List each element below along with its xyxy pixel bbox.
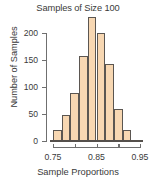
y-tick-100	[42, 87, 47, 88]
histogram-bar	[114, 109, 123, 141]
y-tick-0	[42, 141, 47, 142]
x-tick-0.80	[75, 144, 76, 148]
x-tick-label-0.75: 0.75	[38, 153, 68, 162]
x-tick-0.95	[140, 144, 141, 148]
baseline-rule	[50, 140, 143, 143]
y-tick-50	[42, 114, 47, 115]
y-tick-200	[42, 33, 47, 34]
histogram-bar	[88, 17, 97, 141]
x-axis-label: Sample Proportions	[0, 167, 156, 177]
histogram-bar	[62, 115, 71, 141]
x-tick-0.85	[97, 144, 98, 148]
plot-area: 200 150 100 50 0 Number of Samples 0.75 …	[0, 0, 156, 195]
x-tick-label-0.85: 0.85	[82, 153, 112, 162]
histogram-bar	[79, 56, 88, 141]
histogram-bar	[105, 64, 114, 141]
x-tick-0.75	[53, 144, 54, 148]
y-tick-150	[42, 60, 47, 61]
histogram-bar	[70, 93, 79, 141]
x-tick-0.90	[118, 144, 119, 148]
y-axis-label: Number of Samples	[9, 7, 19, 127]
y-tick-label-0: 0	[11, 137, 38, 146]
x-tick-label-0.95: 0.95	[125, 153, 155, 162]
histogram-figure: Samples of Size 100 200 150 100 50 0 Num…	[0, 0, 156, 195]
histogram-bar	[97, 33, 106, 141]
